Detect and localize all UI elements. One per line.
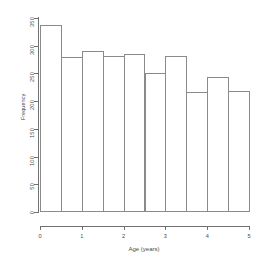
histogram-bar	[186, 92, 208, 212]
histogram-bar	[165, 56, 187, 212]
y-tick-label: 100	[29, 156, 35, 166]
histogram-bar	[103, 56, 125, 212]
y-tick-label: 150	[29, 128, 35, 138]
y-tick-label: 300	[29, 45, 35, 55]
x-tick	[249, 226, 250, 230]
histogram-bar	[124, 54, 146, 212]
histogram-bar	[145, 73, 167, 212]
histogram-chart: 050100150200250300350 012345 Frequency A…	[0, 0, 268, 266]
histogram-bar	[61, 57, 83, 212]
y-axis-line	[38, 17, 39, 213]
histogram-bar	[40, 25, 62, 212]
y-tick-label: 250	[29, 72, 35, 82]
y-tick-label: 200	[29, 100, 35, 110]
bar-series	[40, 0, 249, 266]
histogram-bar	[82, 51, 104, 212]
y-tick-label: 350	[29, 17, 35, 27]
y-axis-title: Frequency	[20, 94, 26, 120]
histogram-bar	[228, 91, 250, 212]
x-axis-title: Age (years)	[128, 246, 159, 252]
histogram-bar	[207, 77, 229, 212]
y-tick-label: 0	[29, 211, 35, 214]
y-tick-label: 50	[29, 183, 35, 190]
